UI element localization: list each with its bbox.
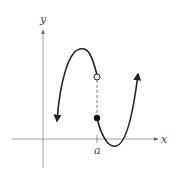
y-axis-label: y [39, 13, 47, 26]
tick-label-a: a [94, 144, 101, 157]
open-endpoint [94, 74, 100, 80]
left-branch-curve [57, 49, 97, 121]
x-axis-label: x [161, 133, 168, 146]
right-branch-curve [97, 74, 138, 146]
closed-endpoint [94, 115, 100, 121]
function-graph: y x a [0, 0, 176, 174]
